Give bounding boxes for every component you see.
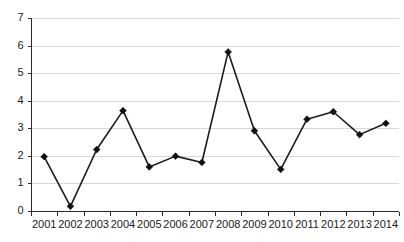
x-tick-label: 2003 xyxy=(84,218,108,230)
chart-canvas: 01234567 2001200220032004200520062007200… xyxy=(0,0,404,242)
x-tick-labels: 2001200220032004200520062007200820092010… xyxy=(32,218,398,230)
x-tick-label: 2001 xyxy=(32,218,56,230)
x-tick-label: 2004 xyxy=(111,218,135,230)
x-tick-label: 2002 xyxy=(58,218,82,230)
y-tick-label: 3 xyxy=(17,121,23,133)
y-tick-label: 4 xyxy=(17,94,23,106)
x-tick-label: 2006 xyxy=(163,218,187,230)
x-tick-label: 2010 xyxy=(268,218,292,230)
x-tick-label: 2005 xyxy=(137,218,161,230)
y-tick-label: 0 xyxy=(17,204,23,216)
x-tick-label: 2007 xyxy=(190,218,214,230)
y-tick-label: 2 xyxy=(17,149,23,161)
x-tick-label: 2011 xyxy=(295,218,319,230)
x-tick-label: 2012 xyxy=(321,218,345,230)
y-tick-label: 1 xyxy=(17,176,23,188)
x-tick-label: 2014 xyxy=(374,218,398,230)
x-tick-label: 2008 xyxy=(216,218,240,230)
x-tick-label: 2013 xyxy=(347,218,371,230)
x-tick-label: 2009 xyxy=(242,218,266,230)
y-tick-label: 6 xyxy=(17,39,23,51)
line-chart: 01234567 2001200220032004200520062007200… xyxy=(0,0,404,242)
y-tick-label: 5 xyxy=(17,66,23,78)
y-tick-label: 7 xyxy=(17,11,23,23)
